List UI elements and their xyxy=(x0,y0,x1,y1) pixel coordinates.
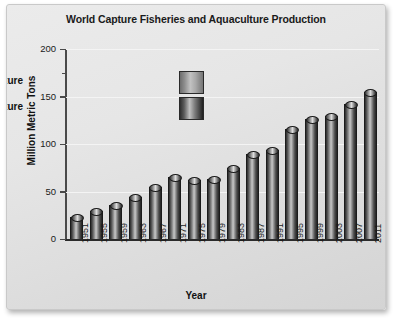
bar-cap xyxy=(90,208,103,216)
x-tick-label: 2003 xyxy=(334,223,344,243)
x-tick-label: 1959 xyxy=(119,223,129,243)
bar-cap xyxy=(169,174,182,182)
y-tick-label: 50 xyxy=(7,186,56,197)
bar-cap xyxy=(345,101,358,109)
y-tick-label: 200 xyxy=(7,43,56,54)
x-tick-label: 1979 xyxy=(217,223,227,243)
x-tick-label: 1983 xyxy=(236,223,246,243)
x-tick-label: 1963 xyxy=(138,223,148,243)
legend-label-aquaculture: Aquaculture xyxy=(6,101,23,112)
plot-area xyxy=(66,49,379,239)
x-tick-label: 1951 xyxy=(80,223,90,243)
legend-swatch-aquaculture xyxy=(179,97,204,120)
bar-cap xyxy=(208,176,221,184)
y-tick-label: 100 xyxy=(7,138,56,149)
x-axis-label: Year xyxy=(7,290,385,301)
y-tick-label: 0 xyxy=(7,233,56,244)
bar-cap xyxy=(325,113,338,121)
x-tick-label: 1991 xyxy=(275,223,285,243)
x-tick-label: 1967 xyxy=(158,223,168,243)
bar-cap xyxy=(129,194,142,202)
legend-swatch-capture xyxy=(179,71,204,94)
bar xyxy=(344,104,357,239)
x-tick-label: 1995 xyxy=(295,223,305,243)
bar-cap xyxy=(247,151,260,159)
bar-cap xyxy=(364,89,377,97)
bar-cap xyxy=(149,184,162,192)
x-tick-label: 2011 xyxy=(373,224,383,243)
bar xyxy=(364,92,377,239)
x-tick-label: 2007 xyxy=(354,223,364,243)
chart-figure: World Capture Fisheries and Aquaculture … xyxy=(6,4,386,310)
bar-cap xyxy=(266,147,279,155)
x-tick-label: 1999 xyxy=(315,223,325,243)
x-tick-label: 1971 xyxy=(178,223,188,243)
bar-cap xyxy=(71,214,84,222)
y-axis-label: Million Metric Tons xyxy=(26,41,37,201)
bar-cap xyxy=(286,126,299,134)
bar xyxy=(305,119,318,239)
bar-cap xyxy=(306,116,319,124)
x-tick-label: 1987 xyxy=(256,223,266,243)
bar-cap xyxy=(110,202,123,210)
bar-cap xyxy=(188,177,201,185)
bar xyxy=(325,116,338,240)
bar-cap xyxy=(227,165,240,173)
legend-label-capture: Capture xyxy=(6,75,23,86)
x-tick-label: 1955 xyxy=(99,223,109,243)
chart-title: World Capture Fisheries and Aquaculture … xyxy=(7,13,385,25)
x-tick-label: 1975 xyxy=(197,223,207,243)
y-tick-label: 150 xyxy=(7,91,56,102)
